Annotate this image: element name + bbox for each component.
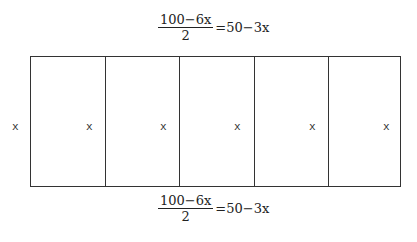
bottom-rhs: =50−3x bbox=[215, 201, 269, 216]
top-denominator: 2 bbox=[182, 28, 190, 43]
divider-3 bbox=[254, 56, 255, 187]
top-rhs: =50−3x bbox=[215, 20, 269, 35]
top-numerator: 100−6x bbox=[158, 12, 213, 28]
top-dimension-label: 100−6x 2 =50−3x bbox=[158, 12, 269, 43]
top-fraction: 100−6x 2 bbox=[158, 12, 213, 43]
bottom-numerator: 100−6x bbox=[158, 193, 213, 209]
side-label-x-3: x bbox=[234, 120, 241, 133]
divider-4 bbox=[328, 56, 329, 187]
bottom-denominator: 2 bbox=[182, 209, 190, 224]
side-label-x-5: x bbox=[383, 120, 390, 133]
divider-1 bbox=[105, 56, 106, 187]
side-label-x-1: x bbox=[86, 120, 93, 133]
bottom-fraction: 100−6x 2 bbox=[158, 193, 213, 224]
side-label-x-4: x bbox=[309, 120, 316, 133]
side-label-x-2: x bbox=[160, 120, 167, 133]
side-label-x-0: x bbox=[12, 120, 19, 133]
bottom-dimension-label: 100−6x 2 =50−3x bbox=[158, 193, 269, 224]
divider-2 bbox=[179, 56, 180, 187]
